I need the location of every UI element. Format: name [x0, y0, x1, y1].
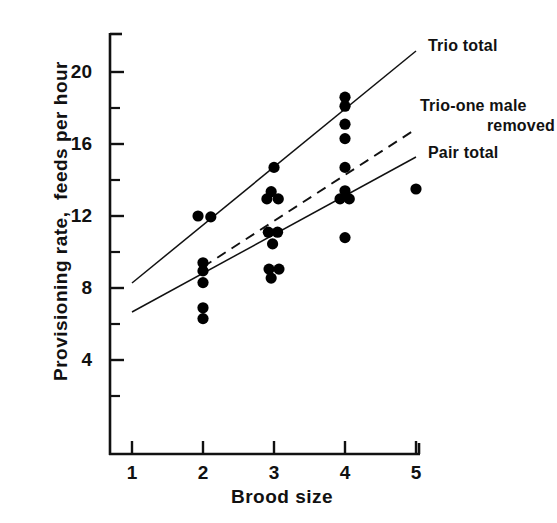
data-point [339, 101, 350, 112]
data-point [339, 162, 350, 173]
x-tick-label-2: 2 [188, 462, 218, 484]
data-point [261, 193, 272, 204]
y-axis-ticks [110, 72, 124, 396]
data-point [267, 238, 278, 249]
data-point [197, 302, 208, 313]
x-axis-ticks [132, 441, 416, 454]
x-axis-title: Brood size [192, 486, 372, 508]
legend-label-trio-total: Trio total [428, 36, 498, 56]
data-point [410, 183, 421, 194]
x-tick-label-1: 1 [117, 462, 147, 484]
data-point [272, 227, 283, 238]
x-tick-label-4: 4 [330, 462, 360, 484]
data-point [339, 232, 350, 243]
scatter-plot-figure: 20 16 12 8 4 1 2 3 4 5 Provisioning rate… [0, 0, 557, 523]
data-point [339, 133, 350, 144]
data-point [266, 273, 277, 284]
data-point [344, 193, 355, 204]
data-point [273, 264, 284, 275]
legend-label-trio-one-male-removed: Trio-one maleremoved [420, 96, 555, 136]
axis-lines [109, 33, 420, 455]
legend-label-line2: removed [420, 116, 555, 136]
data-point-group [192, 92, 421, 325]
legend-label-line1: Trio-one male [420, 97, 527, 114]
data-point [192, 210, 203, 221]
legend-label-pair-total: Pair total [428, 143, 498, 163]
y-axis-title: Provisioning rate, feeds per hour [50, 56, 72, 386]
trend-lines [132, 51, 416, 312]
x-tick-label-5: 5 [401, 462, 431, 484]
x-tick-label-3: 3 [259, 462, 289, 484]
data-point [197, 277, 208, 288]
data-point [339, 119, 350, 130]
data-point [197, 265, 208, 276]
data-point [205, 211, 216, 222]
data-point [273, 193, 284, 204]
data-point [268, 162, 279, 173]
data-point [197, 313, 208, 324]
